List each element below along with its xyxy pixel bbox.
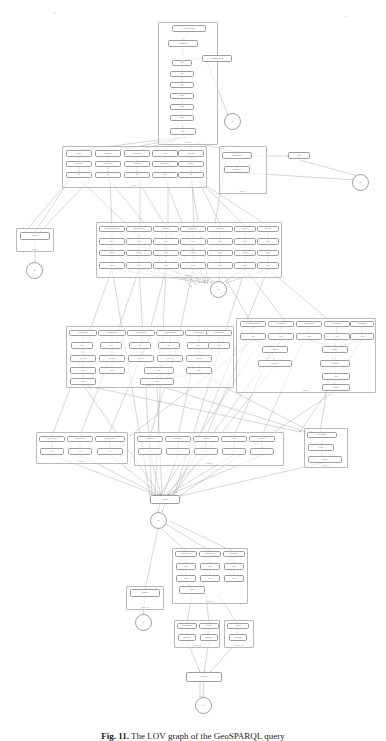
graph-node-g14[interactable]: triple (257, 238, 279, 245)
graph-node-mr4[interactable]: geo:isEmpty (324, 321, 350, 327)
graph-node-g27[interactable]: group (234, 262, 256, 269)
graph-node-sl1[interactable]: construct (130, 589, 160, 597)
graph-node-b8[interactable]: edge (200, 575, 220, 582)
graph-node-r2k[interactable]: bgp (66, 172, 92, 178)
graph-node-z4[interactable]: assemble (200, 634, 218, 641)
graph-node-g17[interactable]: pattern (153, 250, 179, 256)
graph-node-z5[interactable]: rdf:Bag (227, 623, 249, 629)
graph-node-b10[interactable]: reduce (179, 586, 205, 594)
graph-node-g15[interactable]: pattern (99, 250, 125, 256)
graph-node-g4[interactable]: dbo:Country (180, 226, 206, 232)
graph-node-m3[interactable]: geo:sfTouches (127, 330, 155, 336)
graph-node-r2j[interactable]: dbo:city (178, 161, 204, 167)
graph-node-m23[interactable]: merge (140, 378, 174, 385)
graph-node-g20[interactable]: pattern (234, 250, 256, 256)
graph-node-mr3[interactable]: geo:dimension (296, 321, 322, 327)
graph-node-g21[interactable]: pattern (257, 250, 279, 256)
graph-node-m21[interactable]: conj (186, 367, 212, 374)
graph-node-g12[interactable]: triple (207, 238, 233, 245)
graph-node-r2i[interactable]: dbo:country (152, 161, 178, 167)
graph-node-g11[interactable]: triple (180, 238, 206, 245)
graph-node-lm4[interactable]: xsd:float (221, 436, 247, 442)
graph-node-m4[interactable]: geo:sfOverlaps (156, 330, 184, 336)
graph-node-g7[interactable]: dbo:Area (257, 226, 279, 232)
graph-node-b3[interactable]: sparql:bind (223, 551, 245, 557)
graph-node-m19[interactable]: conj (99, 367, 125, 374)
graph-sink-node-e4[interactable]: R4 (210, 281, 227, 298)
graph-sink-node-e6[interactable]: R6 (135, 614, 152, 631)
graph-node-n10[interactable]: slice (170, 128, 196, 135)
graph-node-m17[interactable]: filter-expr (186, 355, 212, 362)
graph-node-n6[interactable]: join (170, 82, 194, 88)
graph-node-m10[interactable]: expr (158, 342, 180, 349)
graph-node-z3[interactable]: assemble (178, 634, 196, 641)
graph-node-n3[interactable]: geo:hasGeometry (202, 55, 232, 62)
graph-node-lm7[interactable]: lit (166, 448, 190, 455)
graph-node-mr6[interactable]: term (240, 333, 266, 340)
graph-node-g24[interactable]: group (153, 262, 179, 269)
graph-node-g1[interactable]: dbo:PopulatedPlace (99, 226, 125, 232)
graph-node-g26[interactable]: group (207, 262, 233, 269)
graph-node-lm1[interactable]: xsd:double (137, 436, 163, 442)
graph-node-m15[interactable]: filter-expr (128, 355, 154, 362)
graph-node-r2f[interactable]: dct:subject (66, 161, 92, 167)
graph-node-mr1[interactable]: geo:hasSerialization (240, 321, 266, 327)
graph-node-m9[interactable]: expr (129, 342, 151, 349)
graph-node-mr5[interactable]: geo:isSimple (350, 321, 374, 327)
graph-node-b7[interactable]: edge (176, 575, 196, 582)
graph-node-g6[interactable]: dbo:City (234, 226, 256, 232)
graph-node-lr3[interactable]: resolve (308, 456, 342, 463)
graph-node-n8[interactable]: distinct (170, 104, 194, 110)
graph-node-lr2[interactable]: coord (308, 444, 334, 451)
graph-node-r2n[interactable]: bgp (152, 172, 178, 178)
graph-node-g2[interactable]: dbo:Settlement (126, 226, 152, 232)
graph-node-g22[interactable]: group (99, 262, 125, 269)
graph-node-hub1[interactable]: union-all (150, 495, 180, 504)
graph-node-ll3[interactable]: dbo:population (95, 436, 125, 442)
graph-sink-node-e2[interactable]: R2 (352, 174, 369, 191)
graph-node-m12[interactable]: expr (208, 342, 230, 349)
graph-node-lr1[interactable]: dbo:wgs84 (307, 432, 337, 438)
graph-node-mr9[interactable]: term (324, 333, 350, 340)
graph-node-fin[interactable]: result-set (186, 672, 222, 682)
graph-sink-node-e7[interactable]: R7 (195, 697, 212, 714)
graph-node-r2a[interactable]: rdf:type (66, 150, 92, 157)
graph-node-r2l[interactable]: bgp (95, 172, 121, 178)
graph-node-m20[interactable]: conj (144, 367, 174, 374)
graph-node-rr2[interactable]: units:metre (224, 166, 250, 173)
graph-node-mr14[interactable]: optional (320, 360, 350, 367)
graph-sink-node-e5[interactable]: R5 (150, 512, 167, 529)
graph-node-n4[interactable]: bind (172, 60, 192, 66)
graph-node-g5[interactable]: dbo:Region (207, 226, 233, 232)
graph-node-g9[interactable]: triple (126, 238, 152, 245)
graph-node-r2h[interactable]: foaf:name (124, 161, 150, 167)
graph-node-ll2[interactable]: dbo:areaTotal (67, 436, 93, 442)
graph-sink-node-e3[interactable]: R3 (26, 262, 43, 279)
graph-node-n5[interactable]: filter (170, 71, 194, 77)
graph-node-g16[interactable]: pattern (126, 250, 152, 256)
graph-node-m2[interactable]: geo:sfContains (98, 330, 126, 336)
graph-node-z2[interactable]: rdf:List (199, 623, 219, 629)
graph-node-lm6[interactable]: lit (138, 448, 162, 455)
graph-node-n1[interactable]: geo:sfIntersects (172, 25, 206, 32)
graph-node-m18[interactable]: conj (70, 367, 96, 374)
graph-node-ll5[interactable]: var (68, 448, 92, 455)
graph-node-rr1[interactable]: geof:distance (222, 152, 252, 159)
graph-node-ll4[interactable]: var (40, 448, 64, 455)
graph-node-r2d[interactable]: geo:lat (152, 150, 178, 157)
graph-node-r2b[interactable]: rdfs:label (95, 150, 121, 157)
graph-node-mr2[interactable]: geo:asGML (268, 321, 294, 327)
graph-node-m14[interactable]: filter-expr (99, 355, 125, 362)
graph-node-mr15[interactable]: union (322, 373, 350, 380)
graph-node-mr10[interactable]: term (350, 333, 374, 340)
graph-node-g23[interactable]: group (126, 262, 152, 269)
graph-node-r2o[interactable]: bgp (178, 172, 204, 178)
graph-node-lm10[interactable]: lit (250, 448, 274, 455)
graph-node-ll6[interactable]: var (97, 448, 123, 455)
graph-node-b9[interactable]: edge (224, 575, 244, 582)
graph-node-g19[interactable]: pattern (207, 250, 233, 256)
graph-node-lm3[interactable]: xsd:string (193, 436, 219, 442)
graph-node-la1[interactable]: service (20, 232, 50, 240)
graph-node-g13[interactable]: triple (234, 238, 256, 245)
graph-node-g25[interactable]: group (180, 262, 206, 269)
